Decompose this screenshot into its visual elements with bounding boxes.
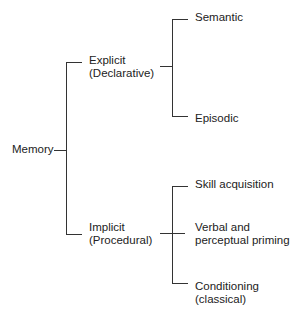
connector-to-episodic [172, 116, 188, 117]
node-skill-acquisition: Skill acquisition [195, 178, 274, 191]
connector-explicit-vertical [172, 19, 173, 117]
node-semantic: Semantic [195, 11, 243, 24]
connector-to-conditioning [172, 283, 188, 284]
node-verbal-line1: Verbal and [195, 221, 250, 234]
node-conditioning-line2: (classical) [195, 293, 246, 306]
connector-explicit [160, 66, 172, 67]
node-conditioning-line1: Conditioning [195, 280, 259, 293]
node-verbal-line2: perceptual priming [195, 234, 290, 247]
node-implicit-line1: Implicit [89, 221, 125, 234]
node-episodic: Episodic [195, 112, 238, 125]
connector-root-vertical [66, 62, 67, 235]
connector-to-explicit [66, 62, 82, 63]
connector-implicit-vertical [172, 186, 173, 284]
connector-to-semantic [172, 19, 188, 20]
node-implicit-line2: (Procedural) [89, 234, 152, 247]
node-explicit-line1: Explicit [89, 54, 125, 67]
connector-memory [54, 150, 66, 151]
node-memory: Memory [12, 143, 54, 156]
connector-to-implicit [66, 234, 82, 235]
node-explicit-line2: (Declarative) [89, 67, 154, 80]
connector-to-skill [172, 186, 188, 187]
